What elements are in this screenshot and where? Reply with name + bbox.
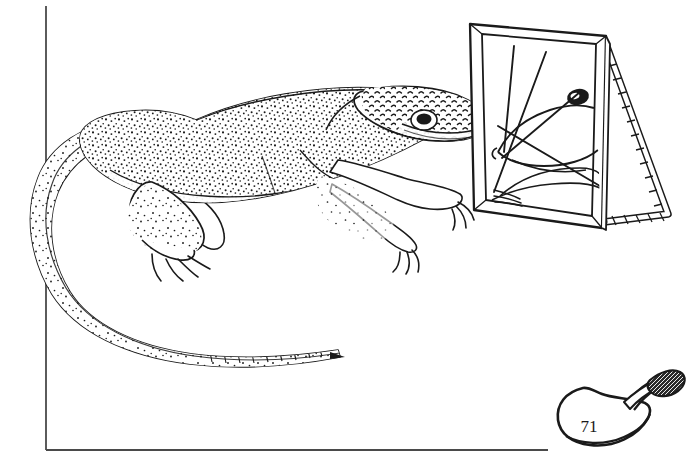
page-number: 71 <box>581 417 598 436</box>
lizard-front-claws-upper <box>452 202 474 230</box>
lizard-front-claws-lower <box>393 250 419 274</box>
trowel-vignette: 71 <box>558 370 685 445</box>
lizard-mirror-illustration: 71 <box>0 0 694 470</box>
mirror <box>470 24 668 230</box>
trowel-handle <box>648 370 685 396</box>
lizard-figure <box>20 78 500 380</box>
illustration-page: 71 <box>0 0 694 470</box>
mirror-glass <box>482 34 596 216</box>
lizard-eye <box>411 110 437 130</box>
